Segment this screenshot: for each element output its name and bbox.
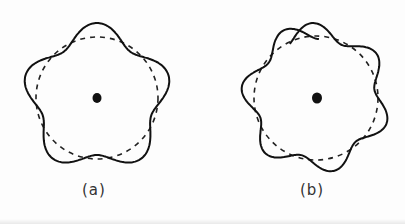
panel-b (242, 23, 388, 171)
clipped-caption-line (0, 219, 405, 224)
figure-canvas (0, 0, 405, 224)
panel-a-label: (a) (82, 181, 106, 199)
panel-a-wave-orbit (25, 23, 170, 163)
panel-a (25, 23, 170, 163)
panel-b-nucleus-dot (312, 93, 322, 104)
panel-b-label: (b) (300, 181, 324, 199)
panel-a-nucleus-dot (93, 93, 102, 103)
